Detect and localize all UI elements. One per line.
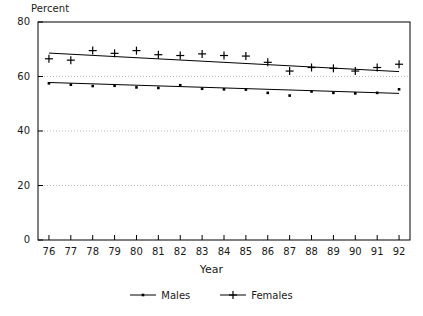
- data-point-females: [329, 64, 337, 72]
- x-tick-label: 91: [365, 246, 389, 257]
- plus-icon: [220, 289, 246, 301]
- trend-line-males: [49, 82, 399, 93]
- chart-root: Percent Year 020406080 76777879808182838…: [0, 0, 423, 316]
- data-point-females: [45, 55, 53, 63]
- dot: [142, 294, 145, 297]
- data-point-males: [135, 86, 138, 89]
- x-tick-label: 80: [124, 246, 148, 257]
- legend-item-females: Females: [220, 289, 292, 301]
- y-tick-label: 0: [6, 234, 30, 245]
- x-tick-label: 81: [146, 246, 170, 257]
- data-point-females: [132, 47, 140, 55]
- data-point-males: [48, 82, 51, 85]
- legend-label: Females: [251, 290, 292, 301]
- x-tick-label: 82: [168, 246, 192, 257]
- data-point-males: [398, 88, 401, 91]
- data-point-females: [67, 56, 75, 64]
- data-point-females: [154, 51, 162, 59]
- data-point-females: [198, 50, 206, 58]
- x-tick-label: 79: [103, 246, 127, 257]
- data-point-males: [113, 84, 116, 87]
- data-point-males: [179, 84, 182, 87]
- data-point-females: [242, 52, 250, 60]
- legend-label: Males: [161, 290, 190, 301]
- legend-item-males: Males: [130, 289, 190, 301]
- data-point-females: [176, 52, 184, 60]
- y-tick-label: 20: [6, 180, 30, 191]
- x-tick-label: 88: [300, 246, 324, 257]
- x-tick-label: 90: [343, 246, 367, 257]
- data-point-males: [245, 88, 248, 91]
- x-tick-label: 92: [387, 246, 411, 257]
- x-tick-label: 78: [81, 246, 105, 257]
- data-point-females: [351, 67, 359, 75]
- data-point-males: [332, 92, 335, 95]
- data-point-males: [91, 85, 94, 88]
- data-point-males: [354, 92, 357, 95]
- data-point-males: [288, 94, 291, 97]
- y-tick-label: 40: [6, 125, 30, 136]
- data-point-females: [308, 64, 316, 72]
- x-tick-label: 77: [59, 246, 83, 257]
- data-point-males: [70, 83, 73, 86]
- data-point-females: [395, 60, 403, 68]
- chart-legend: MalesFemales: [0, 289, 423, 301]
- dot-icon: [130, 289, 156, 301]
- data-point-females: [286, 67, 294, 75]
- x-tick-label: 85: [234, 246, 258, 257]
- data-point-males: [201, 87, 204, 90]
- data-point-males: [310, 90, 313, 93]
- data-point-females: [220, 52, 228, 60]
- y-tick-label: 80: [6, 16, 30, 27]
- data-point-males: [376, 92, 379, 95]
- y-tick-label: 60: [6, 71, 30, 82]
- x-tick-label: 89: [321, 246, 345, 257]
- x-tick-label: 84: [212, 246, 236, 257]
- data-point-females: [89, 47, 97, 55]
- x-tick-label: 87: [278, 246, 302, 257]
- x-tick-label: 83: [190, 246, 214, 257]
- data-point-males: [266, 92, 269, 95]
- chart-plot-area: [0, 0, 423, 316]
- data-point-males: [157, 87, 160, 90]
- x-tick-label: 86: [256, 246, 280, 257]
- x-tick-label: 76: [37, 246, 61, 257]
- data-point-males: [223, 88, 226, 91]
